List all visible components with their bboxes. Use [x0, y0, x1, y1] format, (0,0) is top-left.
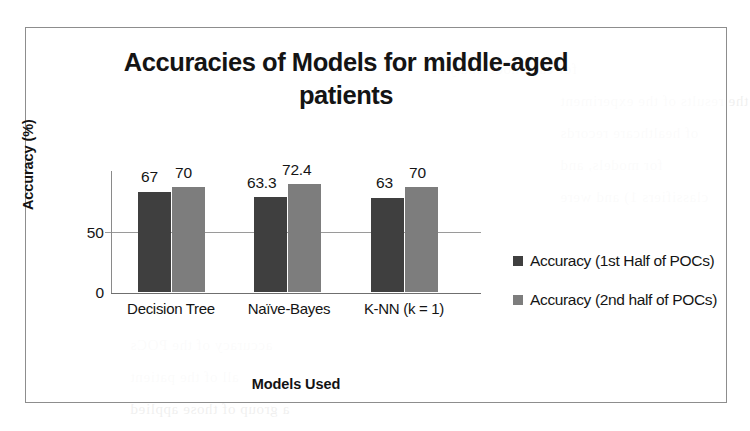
bar-naive-bayes-series2[interactable] — [288, 184, 321, 293]
bar-value-label: 72.4 — [282, 161, 311, 179]
chart-title: Accuracies of Models for middle-aged pat… — [66, 46, 626, 112]
x-axis-title: Models Used — [111, 376, 481, 392]
legend-label: Accuracy (1st Half of POCs) — [530, 252, 714, 270]
y-axis-title: Accuracy (%) — [20, 119, 36, 210]
bar-value-label: 63.3 — [247, 174, 276, 192]
bar-value-label: 70 — [409, 164, 426, 182]
plot-area: 67 70 63.3 72.4 63 70 — [111, 171, 481, 294]
chart-figure-frame: Accuracies of Models for middle-aged pat… — [25, 27, 727, 403]
legend-item-series2[interactable]: Accuracy (2nd half of POCs) — [513, 291, 717, 309]
y-axis-line — [111, 171, 112, 294]
bar-value-label: 67 — [141, 168, 158, 186]
chart-legend: Accuracy (1st Half of POCs) Accuracy (2n… — [513, 252, 717, 330]
legend-swatch-icon — [513, 256, 523, 266]
chart-title-line-1: Accuracies of Models for middle-aged — [66, 46, 626, 79]
bar-decision-tree-series1[interactable] — [138, 192, 171, 293]
x-axis-tick-labels: Decision Tree Naïve-Bayes K-NN (k = 1) — [111, 300, 481, 324]
bar-value-label: 63 — [376, 174, 393, 192]
x-axis-line — [111, 293, 481, 295]
legend-swatch-icon — [513, 295, 523, 305]
x-tick-decision-tree: Decision Tree — [106, 300, 236, 317]
legend-item-series1[interactable]: Accuracy (1st Half of POCs) — [513, 252, 717, 270]
chart-title-line-2: patients — [66, 79, 626, 112]
y-tick-50: 50 — [87, 224, 104, 242]
legend-label: Accuracy (2nd half of POCs) — [530, 291, 717, 309]
y-axis-tick-labels: 50 0 — [74, 171, 104, 294]
y-tick-0: 0 — [95, 284, 104, 302]
bar-knn-series1[interactable] — [371, 198, 404, 293]
bar-knn-series2[interactable] — [405, 187, 438, 292]
x-tick-naive-bayes: Naïve-Bayes — [224, 300, 354, 317]
bar-value-label: 70 — [175, 164, 192, 182]
bar-naive-bayes-series1[interactable] — [254, 197, 287, 292]
bar-decision-tree-series2[interactable] — [172, 187, 205, 292]
x-tick-knn: K-NN (k = 1) — [339, 300, 469, 317]
